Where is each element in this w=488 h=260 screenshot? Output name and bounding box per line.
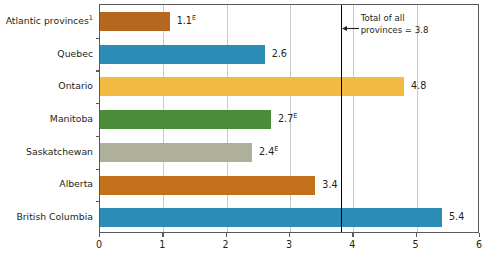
estimate-marker: E xyxy=(274,145,278,153)
x-axis-tick-label: 3 xyxy=(286,239,292,251)
x-axis-tick-label: 1 xyxy=(159,239,165,251)
x-axis-tick-label: 5 xyxy=(413,239,419,251)
bar xyxy=(100,110,271,129)
x-axis-tick xyxy=(416,233,417,237)
bar-chart: Atlantic provinces1QuebecOntarioManitoba… xyxy=(0,0,488,260)
bar-row: 4.8 xyxy=(100,70,478,103)
bar-value-label: 5.4 xyxy=(449,210,464,224)
bar xyxy=(100,208,442,227)
category-label: Manitoba xyxy=(0,113,93,124)
category-axis-labels: Atlantic provinces1QuebecOntarioManitoba… xyxy=(0,0,97,233)
total-reference-line xyxy=(341,5,343,232)
bar-value-label: 2.4E xyxy=(259,145,278,159)
total-annotation: Total of all provinces = 3.8 xyxy=(361,13,429,36)
x-axis-tick xyxy=(226,233,227,237)
total-annotation-line-1: Total of all xyxy=(361,13,429,25)
bar-value-label: 2.6 xyxy=(272,47,287,61)
x-axis-tick-label: 2 xyxy=(223,239,229,251)
total-annotation-line-2: provinces = 3.8 xyxy=(361,25,429,37)
estimate-marker: E xyxy=(293,112,297,120)
estimate-marker: E xyxy=(192,14,196,22)
bar xyxy=(100,176,315,195)
bar xyxy=(100,77,404,96)
y-axis-tick xyxy=(96,103,100,104)
y-axis-tick xyxy=(96,201,100,202)
bar-value-label: 1.1E xyxy=(177,14,196,28)
category-label: Ontario xyxy=(0,80,93,91)
plot-area: 1.1E2.64.82.7E2.4E3.45.4 Total of all pr… xyxy=(99,4,479,233)
y-axis-tick xyxy=(96,136,100,137)
bar-value-label: 3.4 xyxy=(322,178,337,192)
y-axis-tick xyxy=(96,70,100,71)
category-label: British Columbia xyxy=(0,211,93,222)
x-axis-tick xyxy=(352,233,353,237)
x-axis-tick xyxy=(479,233,480,237)
x-axis-tick-label: 6 xyxy=(476,239,482,251)
x-axis-tick xyxy=(162,233,163,237)
bar-row: 2.7E xyxy=(100,103,478,136)
y-axis-tick xyxy=(96,169,100,170)
x-axis-tick-label: 0 xyxy=(96,239,102,251)
bar-row: 3.4 xyxy=(100,169,478,202)
category-label: Alberta xyxy=(0,178,93,189)
x-axis-tick-label: 4 xyxy=(349,239,355,251)
x-axis-tick xyxy=(289,233,290,237)
bar xyxy=(100,143,252,162)
bar-value-label: 4.8 xyxy=(411,79,426,93)
bar-row: 5.4 xyxy=(100,201,478,234)
category-label: Quebec xyxy=(0,48,93,59)
y-axis-tick xyxy=(96,38,100,39)
bar-row: 2.6 xyxy=(100,38,478,71)
x-axis: 0123456 xyxy=(99,233,479,257)
bar xyxy=(100,12,170,31)
bar-value-label: 2.7E xyxy=(278,112,297,126)
x-axis-tick xyxy=(99,233,100,237)
footnote-marker: 1 xyxy=(89,14,93,22)
category-label: Atlantic provinces1 xyxy=(0,15,93,26)
category-label: Saskatchewan xyxy=(0,146,93,157)
total-arrow-icon xyxy=(342,24,360,33)
bar-row: 2.4E xyxy=(100,136,478,169)
bar xyxy=(100,45,265,64)
